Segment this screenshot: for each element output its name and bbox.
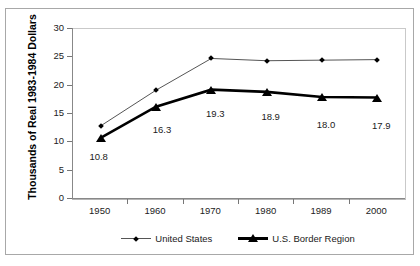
y-tick-label: 15: [42, 108, 64, 117]
x-tick-label: 1980: [243, 205, 289, 216]
y-axis-title: Thousands of Real 1983-1984 Dollars: [26, 12, 38, 202]
x-tick-label: 2000: [353, 205, 399, 216]
legend-label-us-border-region: U.S. Border Region: [272, 233, 354, 244]
data-label-us-border-region: 16.3: [142, 124, 182, 135]
y-tick-label: 25: [42, 51, 64, 60]
x-tick-mark: [183, 199, 184, 204]
y-tick-label: 20: [42, 80, 64, 89]
legend-marker-triangle-icon: [238, 233, 268, 243]
y-tick-label: 5: [42, 165, 64, 174]
data-point-us-border-region: [151, 103, 161, 111]
series-lines: [73, 29, 405, 199]
data-point-us-border-region: [317, 93, 327, 101]
y-axis-line: [72, 28, 73, 199]
data-label-us-border-region: 18.0: [306, 119, 346, 130]
y-tick-label: 30: [42, 23, 64, 32]
plot-area: 10.816.319.318.918.017.9: [72, 28, 406, 200]
data-point-us-border-region: [262, 88, 272, 96]
x-tick-mark: [238, 199, 239, 204]
data-label-us-border-region: 19.3: [195, 108, 235, 119]
x-tick-label: 1960: [132, 205, 178, 216]
legend-label-united-states: United States: [155, 233, 212, 244]
data-label-us-border-region: 18.9: [251, 111, 291, 122]
data-point-us-border-region: [372, 94, 382, 102]
data-point-us-border-region: [96, 134, 106, 142]
data-label-us-border-region: 17.9: [361, 120, 401, 131]
x-tick-mark: [127, 199, 128, 204]
y-tick-label: 0: [42, 193, 64, 202]
legend-item-united-states[interactable]: United States: [121, 233, 212, 244]
x-tick-label: 1950: [77, 205, 123, 216]
legend-item-us-border-region[interactable]: U.S. Border Region: [238, 233, 354, 244]
x-tick-label: 1970: [187, 205, 233, 216]
data-point-us-border-region: [206, 86, 216, 94]
x-tick-mark: [293, 199, 294, 204]
data-label-us-border-region: 10.8: [79, 151, 119, 162]
x-tick-label: 1989: [298, 205, 344, 216]
chart-legend: United States U.S. Border Region: [72, 229, 404, 247]
y-tick-label: 10: [42, 136, 64, 145]
chart-figure: Thousands of Real 1983-1984 Dollars 0510…: [0, 0, 420, 266]
legend-marker-diamond-icon: [121, 233, 151, 243]
x-tick-mark: [349, 199, 350, 204]
